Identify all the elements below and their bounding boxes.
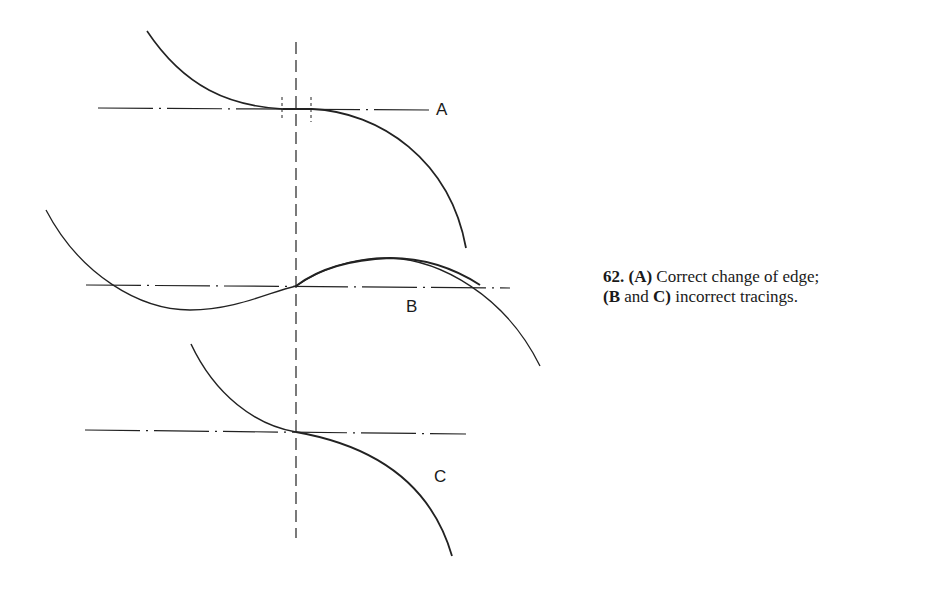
curve-a-left xyxy=(147,31,283,109)
tracing-c: C xyxy=(85,344,466,556)
curve-b-bold xyxy=(296,258,480,286)
curve-c-right xyxy=(296,432,452,556)
tracing-a: A xyxy=(98,31,466,248)
figure-number: 62. xyxy=(603,267,624,286)
curve-c-left xyxy=(191,344,296,432)
label-c: C xyxy=(434,467,446,486)
caption-line-1: 62. (A) Correct change of edge; xyxy=(603,267,819,287)
axis-line-a xyxy=(98,108,430,110)
axis-line-c xyxy=(85,430,466,434)
caption-text-1: Correct change of edge; xyxy=(652,267,819,286)
caption-and: and xyxy=(620,287,653,306)
label-b: B xyxy=(406,297,417,316)
tracing-b: B xyxy=(46,210,540,366)
caption-text-2: incorrect tracings. xyxy=(671,287,798,306)
figure-caption: 62. (A) Correct change of edge; (B and C… xyxy=(603,267,819,307)
caption-line-2: (B and C) incorrect tracings. xyxy=(603,287,819,307)
caption-ref-b: (B xyxy=(603,287,620,306)
caption-ref-c: C) xyxy=(653,287,671,306)
curve-a-right xyxy=(312,109,466,248)
label-a: A xyxy=(436,100,448,119)
caption-ref-a: (A) xyxy=(629,267,653,286)
